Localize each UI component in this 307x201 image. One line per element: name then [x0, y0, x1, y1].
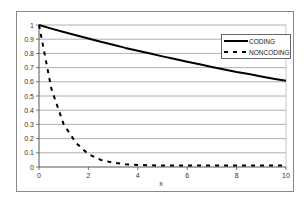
x-tick-label: 8: [235, 172, 239, 179]
x-tick-label: 0: [37, 172, 41, 179]
y-tick-label: 0.5: [24, 93, 34, 100]
y-tick-label: 0.9: [24, 36, 34, 43]
y-tick-label: 0.1: [24, 149, 34, 156]
line-chart: 00.10.20.30.40.50.60.70.80.91 0246810 x …: [0, 0, 307, 201]
y-tick-label: 1: [30, 22, 34, 29]
x-tick-label: 4: [136, 172, 140, 179]
x-tick-label: 2: [86, 172, 90, 179]
y-tick-label: 0.7: [24, 64, 34, 71]
legend-label-noncoding: NONCODING: [249, 49, 289, 56]
legend-label-coding: CODING: [249, 38, 275, 45]
legend: CODING NONCODING: [222, 35, 291, 59]
x-tick-label: 10: [282, 172, 290, 179]
y-tick-label: 0.8: [24, 50, 34, 57]
y-tick-label: 0: [30, 164, 34, 171]
y-tick-label: 0.3: [24, 121, 34, 128]
x-axis-label: x: [159, 180, 163, 187]
y-tick-label: 0.2: [24, 135, 34, 142]
y-tick-label: 0.4: [24, 107, 34, 114]
x-tick-label: 6: [185, 172, 189, 179]
y-tick-label: 0.6: [24, 78, 34, 85]
